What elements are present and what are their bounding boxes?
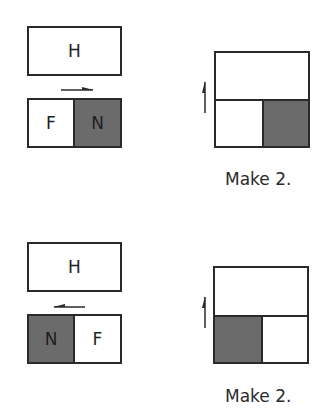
caption: Make 2. bbox=[225, 169, 291, 189]
panel-1-fn-block: F N bbox=[27, 98, 122, 148]
h-label: H bbox=[29, 244, 120, 290]
panel-2-h-block: H bbox=[27, 242, 122, 292]
arrow-right-icon bbox=[60, 85, 96, 93]
f-cell: F bbox=[29, 100, 75, 146]
panel-2-nf-block: N F bbox=[27, 314, 122, 364]
shaded-cell bbox=[264, 101, 308, 146]
panel-2-result-block bbox=[213, 266, 309, 364]
shaded-cell bbox=[215, 317, 261, 362]
h-label: H bbox=[29, 28, 120, 74]
n-cell-shaded: N bbox=[29, 316, 75, 362]
n-cell-shaded: N bbox=[75, 100, 120, 146]
caption: Make 2. bbox=[225, 386, 291, 406]
arrow-left-icon bbox=[51, 302, 87, 310]
arrow-up-icon bbox=[200, 80, 210, 114]
panel-1-result-block bbox=[214, 51, 310, 148]
f-cell: F bbox=[75, 316, 120, 362]
arrow-up-icon bbox=[200, 295, 210, 329]
panel-1-h-block: H bbox=[27, 26, 122, 76]
divider bbox=[261, 317, 263, 362]
